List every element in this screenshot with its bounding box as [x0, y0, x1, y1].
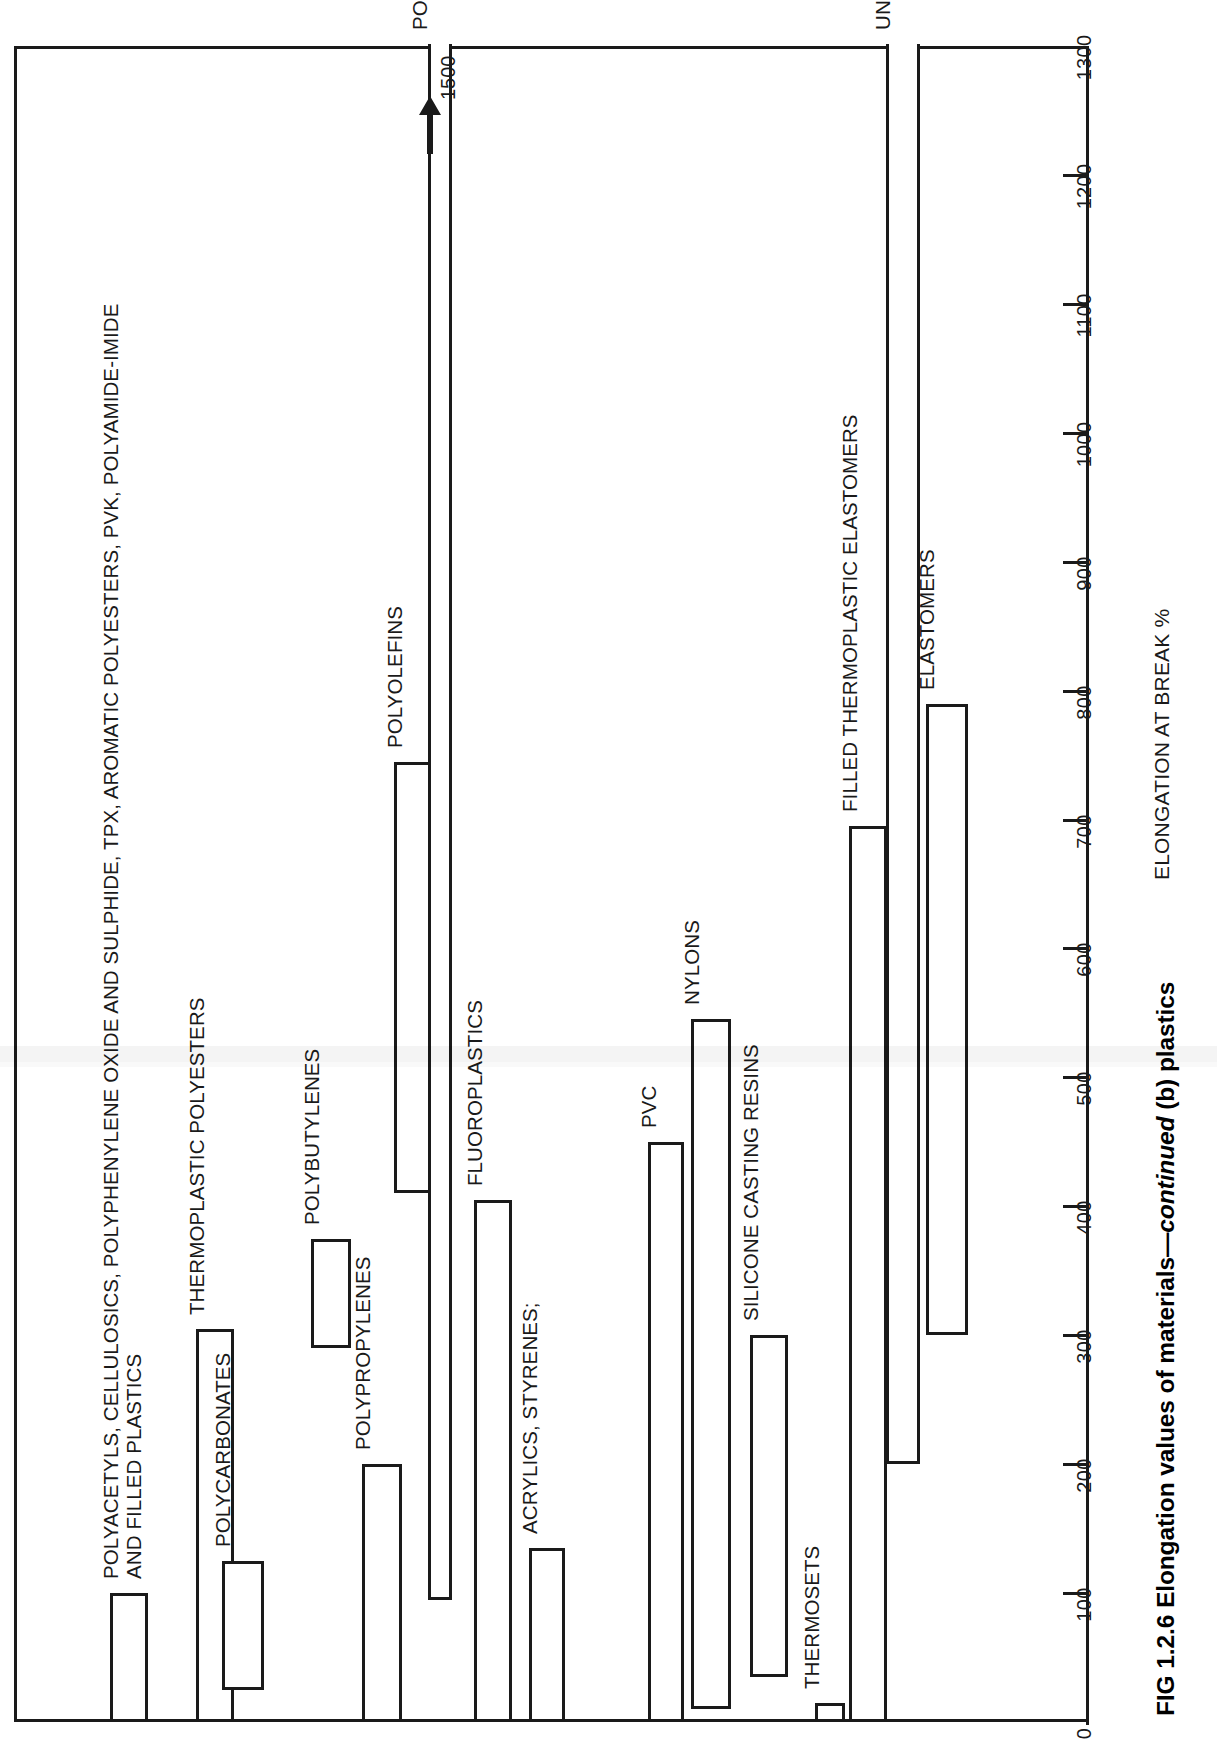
axis-tick-label: 800 — [1073, 685, 1096, 719]
bar-label: FILLED THERMOPLASTIC ELASTOMERS — [839, 414, 862, 812]
axis-tick-label: 0 — [1073, 1728, 1096, 1739]
bar-range — [886, 44, 920, 1464]
bar-range — [110, 1593, 148, 1722]
axis-tick-label: 500 — [1073, 1072, 1096, 1106]
caption-suffix: (b) plastics — [1152, 982, 1179, 1117]
bar-range — [750, 1335, 788, 1677]
bar-label: PVC — [638, 1085, 661, 1127]
bar-label: ACRYLICS, STYRENES; — [519, 1302, 542, 1534]
bar-label: POLYOLEFINS — [384, 606, 407, 748]
bar-range — [311, 1239, 351, 1349]
bar-range — [815, 1703, 845, 1722]
bar-range — [222, 1561, 264, 1690]
bar-label: THERMOPLASTIC POLYESTERS — [186, 997, 209, 1315]
figure-caption: FIG 1.2.6 Elongation values of materials… — [1152, 982, 1180, 1716]
bar-label: NYLONS — [681, 920, 704, 1005]
bar-range — [428, 44, 452, 1600]
bar-label: FLUOROPLASTICS — [464, 1000, 487, 1186]
bar-range — [691, 1019, 731, 1709]
overflow-value-label: 1500 — [437, 56, 460, 101]
up-arrow-icon — [419, 96, 441, 154]
axis-tick-label: 300 — [1073, 1330, 1096, 1364]
bar-range — [362, 1464, 402, 1722]
bar-label: UNFILLED THERMOPLASTIC ELASTOMERS — [872, 0, 895, 30]
caption-italic: continued — [1152, 1117, 1179, 1233]
axis-tick-label: 1200 — [1073, 164, 1096, 210]
bar-label: POLYPROPYLENES — [352, 1257, 375, 1451]
bar-range — [529, 1548, 565, 1722]
axis-tick-label: 900 — [1073, 556, 1096, 590]
bar-label: POLYBUTYLENES — [301, 1048, 324, 1224]
bar-label: THERMOSETS — [801, 1545, 824, 1688]
caption-prefix: FIG 1.2.6 Elongation values of materials… — [1152, 1233, 1179, 1716]
bar-label: ELASTOMERS — [916, 549, 939, 690]
bar-range — [474, 1200, 512, 1722]
bar-label: SILICONE CASTING RESINS — [740, 1044, 763, 1321]
axis-tick-label: 1000 — [1073, 421, 1096, 467]
bar-range — [849, 826, 887, 1722]
bar-range — [648, 1142, 684, 1722]
axis-tick-label: 100 — [1073, 1587, 1096, 1621]
axis-tick-label: 400 — [1073, 1201, 1096, 1235]
bar-label: POLYACETYLS, CELLULOSICS, POLYPHENYLENE … — [100, 304, 146, 1580]
bar-label: POLYCARBONATES — [212, 1353, 235, 1547]
axis-tick-label: 1100 — [1073, 293, 1096, 337]
axis-tick-label: 700 — [1073, 814, 1096, 848]
axis-title: ELONGATION AT BREAK % — [1150, 609, 1174, 880]
bar-label: POLYETHYLENES — [409, 0, 432, 30]
bar-range — [926, 704, 968, 1336]
axis-tick-label: 1300 — [1073, 35, 1096, 81]
elongation-bar-chart-figure: 0100200300400500600700800900100011001200… — [0, 0, 1217, 1755]
axis-tick-label: 600 — [1073, 943, 1096, 977]
axis-tick-label: 200 — [1073, 1459, 1096, 1493]
